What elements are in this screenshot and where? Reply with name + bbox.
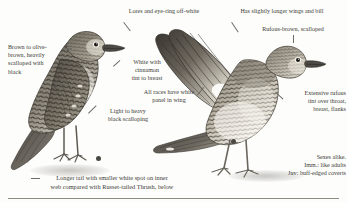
annotation-extensive-rufous: Extensive rufous tint over throat, breas… — [276, 89, 346, 114]
leader-rufous-brown — [293, 35, 294, 43]
annotation-light-heavy: Light to heavy black scalloping — [94, 107, 162, 123]
annotation-tail-caption: Longer tail with smaller white spot on i… — [26, 174, 198, 191]
annotation-sexes: Sexes alike. Imm.: like adults Juv: buff… — [236, 153, 346, 178]
bird-figure-perched — [8, 14, 138, 174]
annotation-brown-olive: Brown to olive- brown, heavily scalloped… — [8, 43, 66, 76]
scale-dot-right — [231, 139, 236, 144]
footer-rule — [8, 198, 339, 199]
annotation-white-panel: All races have white panel in wing — [131, 88, 207, 104]
annotation-rufous-brown: Rufous-brown, scalloped — [240, 25, 346, 33]
annotation-wings-bill: Has slightly longer wings and bill — [218, 7, 346, 15]
illustration-plate: Lores and eye-ring off-white Has slightl… — [0, 0, 347, 203]
feet — [54, 154, 86, 162]
tail-white-spot — [166, 147, 174, 150]
scale-dot-left — [96, 156, 101, 161]
eye — [94, 43, 98, 47]
annotation-lores-eyering: Lores and eye-ring off-white — [104, 7, 224, 15]
legs — [64, 126, 78, 155]
annotation-white-cinnamon: White with cinnamon tint to breast — [118, 58, 176, 83]
eye — [296, 58, 300, 62]
